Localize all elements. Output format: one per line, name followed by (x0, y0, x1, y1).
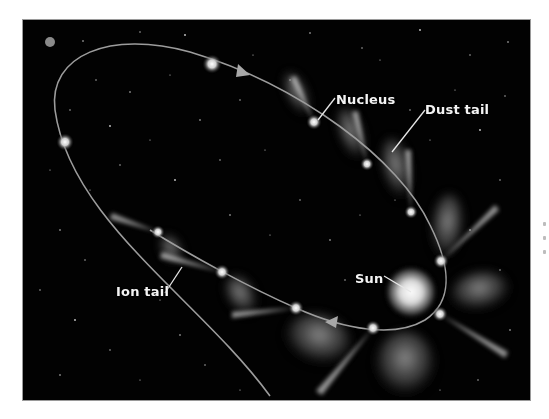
comet-icon (56, 133, 74, 151)
comet-icon (360, 157, 374, 171)
comet-icon (151, 225, 165, 239)
sun-label: Sun (355, 271, 383, 286)
dust-tail-leader-line (392, 110, 425, 152)
diagram-canvas (23, 20, 530, 400)
comet-icon (433, 253, 449, 269)
dust-tail-label: Dust tail (425, 102, 489, 117)
comet-icon (288, 300, 304, 316)
comet-icon (306, 114, 322, 130)
comet-icon (432, 306, 448, 322)
leader-lines (165, 98, 425, 293)
comet-orbit-diagram: Nucleus Dust tail Ion tail Sun (23, 20, 530, 400)
comet-icon (365, 320, 381, 336)
direction-arrow-icon (236, 64, 250, 77)
nucleus-label: Nucleus (336, 92, 396, 107)
dust-tails (155, 69, 513, 399)
scan-mark (543, 250, 546, 254)
comet-icon (404, 205, 418, 219)
comet-icon (202, 54, 222, 74)
ion-tail-label: Ion tail (116, 284, 169, 299)
scan-mark (543, 236, 546, 240)
comet-icon (214, 264, 230, 280)
scan-mark (543, 222, 546, 226)
comet-icon (45, 37, 55, 47)
